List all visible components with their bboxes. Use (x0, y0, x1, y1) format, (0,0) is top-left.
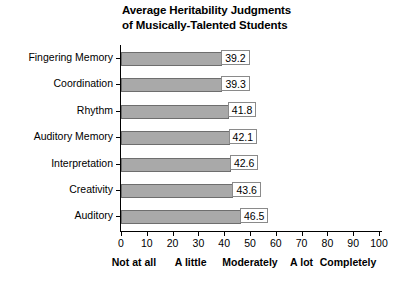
bar-value-label: 39.3 (221, 76, 249, 91)
chart-title-line-1: Average Heritability Judgments (122, 3, 392, 18)
bar (121, 105, 229, 119)
category-label: Interpretation (1, 156, 113, 170)
bar-row: 39.2Fingering Memory (121, 46, 379, 72)
bar (121, 78, 222, 92)
plot-area: 39.2Fingering Memory39.3Coordination41.8… (121, 46, 379, 231)
bar-row: 42.1Auditory Memory (121, 125, 379, 151)
x-axis-tick (302, 232, 303, 236)
category-label: Creativity (1, 182, 113, 196)
bar-value-label: 42.6 (230, 155, 258, 170)
bar (121, 52, 222, 66)
x-axis-tick (173, 232, 174, 236)
category-label: Auditory Memory (1, 129, 113, 143)
bar (121, 158, 231, 172)
scale-anchor-label: Completely (303, 255, 393, 269)
x-axis-line (120, 231, 382, 232)
category-label: Rhythm (1, 103, 113, 117)
x-axis-tick (379, 232, 380, 236)
bar-row: 43.6Creativity (121, 178, 379, 204)
bar-value-label: 41.8 (228, 102, 256, 117)
chart-title: Average Heritability Judgments of Musica… (122, 3, 392, 33)
bar-row: 46.5Auditory (121, 204, 379, 230)
chart-title-line-2: of Musically-Talented Students (122, 18, 392, 33)
bar-value-label: 39.2 (221, 50, 249, 65)
x-axis-tick-label: 100 (364, 237, 394, 250)
x-axis-tick (353, 232, 354, 236)
bar (121, 210, 241, 224)
bar-row: 39.3Coordination (121, 72, 379, 98)
bar-chart: Average Heritability Judgments of Musica… (0, 0, 407, 281)
bar-value-label: 46.5 (240, 208, 268, 223)
x-axis-tick (327, 232, 328, 236)
category-label: Fingering Memory (1, 50, 113, 64)
x-axis-tick (198, 232, 199, 236)
bar-row: 41.8Rhythm (121, 99, 379, 125)
x-axis-tick (121, 232, 122, 236)
category-label: Coordination (1, 76, 113, 90)
bar-row: 42.6Interpretation (121, 152, 379, 178)
x-axis-tick (224, 232, 225, 236)
category-label: Auditory (1, 208, 113, 222)
bar-value-label: 42.1 (229, 129, 257, 144)
bar-value-label: 43.6 (232, 182, 260, 197)
bar (121, 131, 230, 145)
x-axis-tick (250, 232, 251, 236)
x-axis-tick (147, 232, 148, 236)
bar (121, 184, 233, 198)
x-axis-tick (276, 232, 277, 236)
